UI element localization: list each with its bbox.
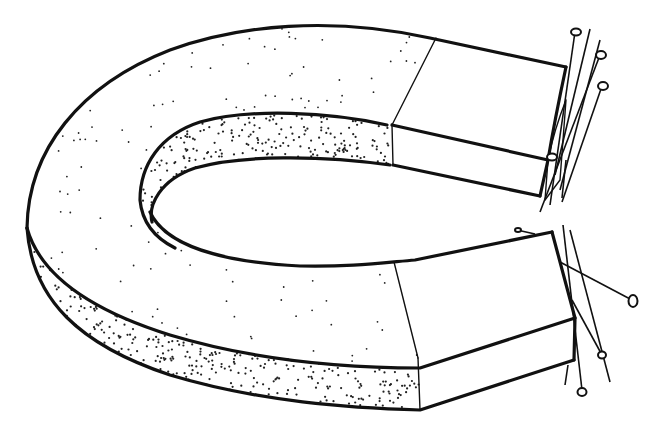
pole-bottom-divider-side (418, 358, 420, 410)
stipple-dot (340, 101, 342, 103)
stipple-dot (199, 351, 201, 353)
stipple-dot (248, 117, 250, 119)
stipple-dot (66, 309, 68, 311)
stipple-dot (300, 98, 302, 100)
stipple-dot (357, 380, 359, 382)
stipple-dot (308, 376, 310, 378)
stipple-dot (334, 136, 336, 138)
stipple-dot (127, 348, 129, 350)
stipple-dot (167, 349, 169, 351)
stipple-dot (188, 365, 190, 367)
stipple-dot (330, 133, 332, 135)
stipple-dot (192, 369, 194, 371)
stipple-dot (109, 326, 111, 328)
stipple-dot (397, 397, 399, 399)
stipple-dot (324, 370, 326, 372)
stipple-dot (231, 132, 233, 134)
stipple-dot (166, 162, 168, 164)
stipple-dot (316, 154, 318, 156)
stipple-dot (349, 144, 351, 146)
stipple-dot (274, 48, 276, 50)
stipple-dot (414, 62, 416, 64)
stipple-dot (169, 146, 171, 148)
stipple-dot (230, 369, 232, 371)
stipple-dot (343, 140, 345, 142)
stipple-dot (271, 146, 273, 148)
stipple-dot (232, 386, 234, 388)
stipple-dot (350, 395, 352, 397)
pole-top-inner-edge (392, 125, 548, 160)
stipple-dot (358, 398, 360, 400)
stipple-dot (289, 75, 291, 77)
stipple-dot (132, 338, 134, 340)
stipple-dot (251, 338, 253, 340)
stipple-dot (62, 135, 64, 137)
stipple-dot (149, 74, 151, 76)
stipple-dot (310, 151, 312, 153)
stipple-dot (115, 319, 117, 321)
stipple-dot (332, 400, 334, 402)
stipple-dot (339, 79, 341, 81)
stipple-dot (376, 145, 378, 147)
stipple-dot (310, 366, 312, 368)
stipple-dot (94, 328, 96, 330)
stipple-dot (392, 402, 394, 404)
stipple-dot (340, 132, 342, 134)
stipple-dot (165, 253, 167, 255)
stipple-dot (245, 367, 247, 369)
stipple-dot (280, 299, 282, 301)
stipple-dot (224, 368, 226, 370)
stipple-dot (189, 356, 191, 358)
stipple-dot (254, 106, 256, 108)
stipple-dot (318, 137, 320, 139)
stipple-dot (389, 400, 391, 402)
stipple-dot (250, 134, 252, 136)
stipple-dot (128, 141, 130, 143)
stipple-dot (101, 320, 103, 322)
stipple-dot (190, 373, 192, 375)
pole-top-divider-inner (392, 125, 393, 165)
stipple-dot (324, 396, 326, 398)
stipple-dot (274, 95, 276, 97)
stipple-dot (242, 152, 244, 154)
stipple-dot (261, 143, 263, 145)
stipple-dot (80, 298, 82, 300)
pole-top-divider-top (392, 38, 436, 125)
stipple-dot (303, 368, 305, 370)
stipple-dot (325, 132, 327, 134)
stipple-dot (222, 44, 224, 46)
stipple-dot (226, 300, 228, 302)
stipple-dot (394, 371, 396, 373)
stipple-dot (401, 385, 403, 387)
stipple-dot (248, 122, 250, 124)
stipple-dot (285, 136, 287, 138)
stipple-dot (383, 132, 385, 134)
stipple-dot (340, 387, 342, 389)
stipple-dot (148, 338, 150, 340)
stipple-dot (303, 133, 305, 135)
stipple-dot (131, 311, 133, 313)
stipple-dot (256, 382, 258, 384)
inner-slot-strip-lower (151, 158, 390, 222)
stipple-dot (234, 316, 236, 318)
stipple-dot (121, 129, 123, 131)
stipple-dot (188, 157, 190, 159)
stipple-dot (183, 342, 185, 344)
stipple-dot (338, 147, 340, 149)
stipple-dot (243, 109, 245, 111)
stipple-dot (382, 381, 384, 383)
stipple-dot (226, 269, 228, 271)
stipple-dot (67, 193, 69, 195)
stipple-dot (113, 342, 115, 344)
stipple-dot (378, 125, 380, 127)
stipple-dot (268, 393, 270, 395)
stipple-dot (409, 385, 411, 387)
stipple-dot (126, 334, 128, 336)
stipple-dot (237, 372, 239, 374)
stipple-dot (130, 225, 132, 227)
stipple-dot (368, 395, 370, 397)
stipple-dot (290, 126, 292, 128)
stipple-dot (163, 359, 165, 361)
stipple-dot (235, 106, 237, 108)
stipple-dot (194, 139, 196, 141)
